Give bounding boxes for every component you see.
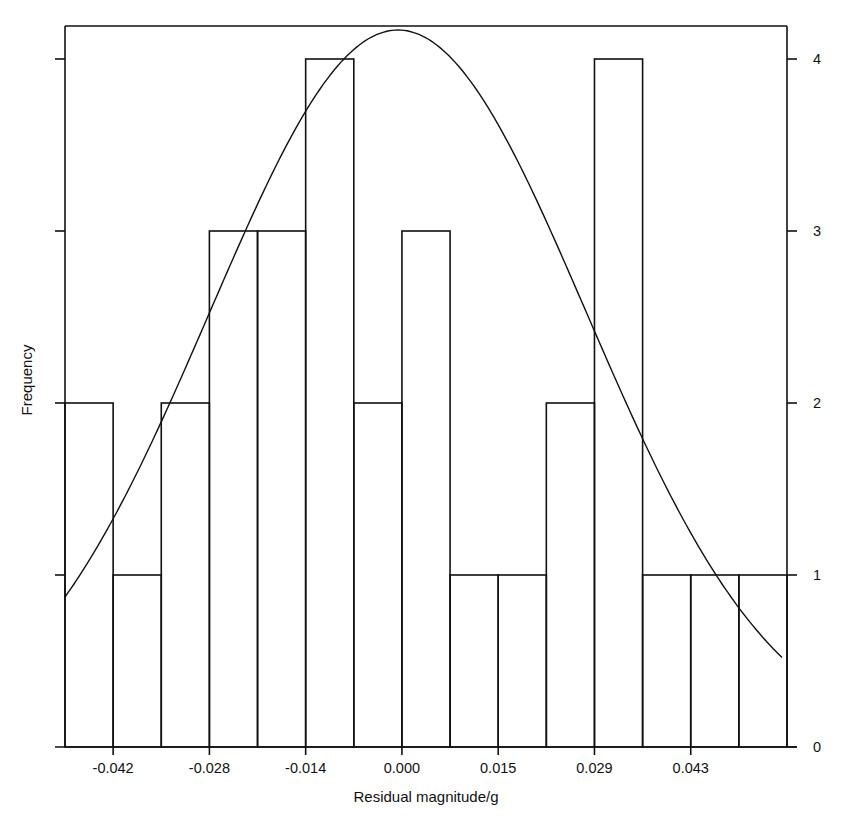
y-axis-label: Frequency xyxy=(18,345,35,416)
histogram-bar xyxy=(450,575,498,747)
histogram-bar xyxy=(209,231,257,747)
y-tick-label: 3 xyxy=(813,223,821,239)
histogram-bar xyxy=(402,231,450,747)
y-tick-label: 4 xyxy=(813,51,821,67)
x-tick-label: 0.015 xyxy=(480,760,516,776)
histogram-bar xyxy=(354,403,402,747)
histogram-bar xyxy=(546,403,594,747)
x-tick-label: 0.029 xyxy=(576,760,612,776)
histogram-bar xyxy=(739,575,787,747)
x-tick-label: -0.042 xyxy=(93,760,134,776)
histogram-bar xyxy=(643,575,691,747)
histogram-bar xyxy=(691,575,739,747)
x-tick-label: 0.043 xyxy=(673,760,709,776)
normal-curve xyxy=(65,30,782,658)
plot-frame xyxy=(55,26,797,747)
histogram-bar xyxy=(113,575,161,747)
y-tick-label: 0 xyxy=(813,739,821,755)
histogram-bar xyxy=(594,59,642,747)
histogram-bar xyxy=(306,59,354,747)
histogram-bar xyxy=(498,575,546,747)
histogram-bar xyxy=(161,403,209,747)
x-axis-label: Residual magnitude/g xyxy=(353,788,498,805)
axis-ticks xyxy=(55,59,797,755)
histogram-bars xyxy=(65,59,787,747)
histogram-plot xyxy=(0,0,844,827)
y-tick-label: 1 xyxy=(813,567,821,583)
histogram-bar xyxy=(65,403,113,747)
x-tick-label: -0.014 xyxy=(285,760,326,776)
x-tick-label: 0.000 xyxy=(384,760,420,776)
y-tick-label: 2 xyxy=(813,395,821,411)
histogram-bar xyxy=(258,231,306,747)
x-tick-label: -0.028 xyxy=(189,760,230,776)
